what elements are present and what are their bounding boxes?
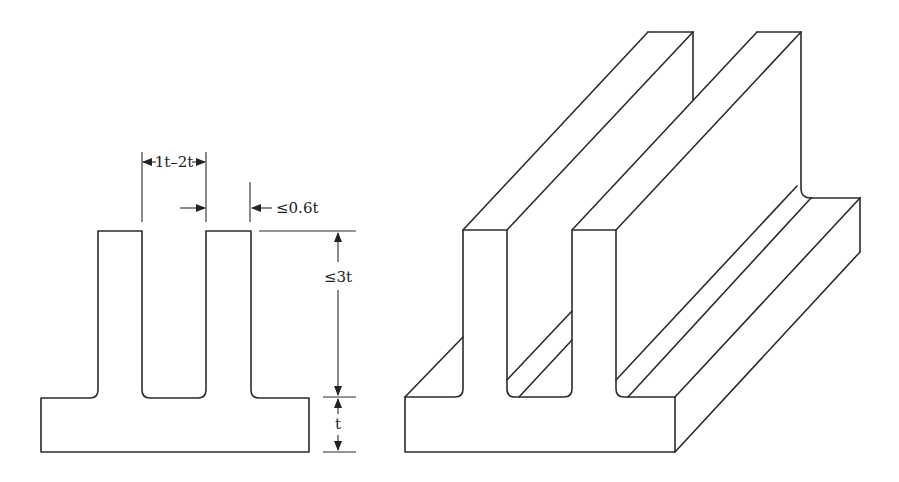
fin-gap-label: 1t–2t	[155, 153, 194, 171]
extrusion-diagram: 1t–2t ≤0.6t ≤3t t	[0, 0, 899, 482]
cross-section-profile	[41, 231, 309, 452]
dimension-fin-gap: 1t–2t	[142, 152, 206, 222]
dimension-fin-thickness: ≤0.6t	[180, 182, 318, 222]
fin-height-label: ≤3t	[324, 268, 352, 286]
dimension-heights: ≤3t t	[259, 231, 356, 452]
base-thickness-label: t	[335, 415, 341, 433]
isometric-view	[405, 32, 860, 452]
fin-thickness-label: ≤0.6t	[276, 199, 318, 217]
